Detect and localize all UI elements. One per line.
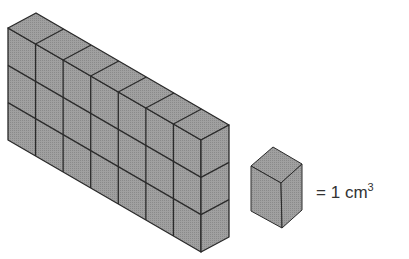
equals-sign: = (316, 183, 326, 202)
unit-cube-prism-diagram (0, 0, 409, 259)
unit-exponent: 3 (368, 181, 374, 193)
unit-cube (251, 147, 302, 228)
unit-value: 1 (331, 183, 340, 202)
rectangular-prism (8, 13, 229, 252)
unit-cube-label: = 1 cm3 (316, 181, 374, 203)
unit-name: cm (345, 183, 368, 202)
